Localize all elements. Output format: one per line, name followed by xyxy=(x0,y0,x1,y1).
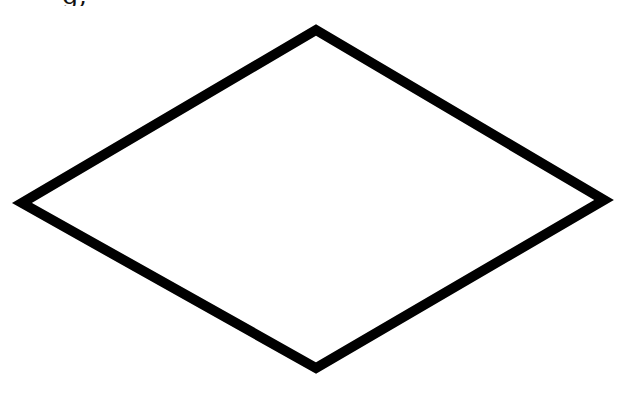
diagram-canvas xyxy=(0,0,629,407)
rhombus-shape xyxy=(22,30,604,368)
